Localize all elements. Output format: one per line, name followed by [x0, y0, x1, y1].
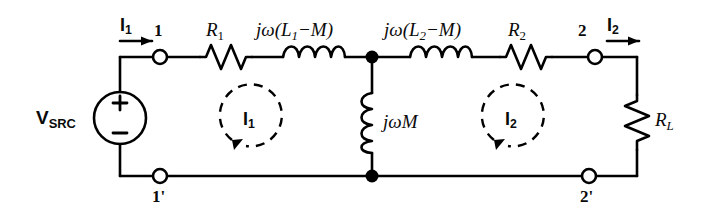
terminal-label-1prime: 1': [152, 188, 165, 205]
terminal-node-1-circle: [153, 50, 167, 64]
resistor-r2-label: R2: [508, 20, 526, 43]
resistor-rl-label-main: R: [655, 109, 667, 130]
junction-dot-top-center: [366, 51, 379, 64]
voltage-source-label-main: V: [36, 107, 49, 128]
source-plus-sign: [113, 96, 127, 110]
inductor-m-label: jωM: [383, 112, 418, 131]
resistor-rl-label: RL: [655, 110, 674, 133]
input-current-i1-sub: 1: [125, 23, 132, 37]
inductor-l2-label: jω(L2−M): [384, 20, 461, 43]
terminal-node-2prime-circle: [582, 169, 596, 183]
mesh-loop-i2-arrowhead: [494, 139, 505, 150]
terminal-node-1prime-circle: [153, 169, 167, 183]
mesh-loop-i1-arrowhead: [232, 139, 243, 150]
terminal-label-2prime: 2': [580, 188, 593, 205]
mesh-current-label-i1: I1: [243, 110, 255, 131]
inductor-m-symbol: [362, 93, 373, 153]
resistor-rl-symbol: [625, 95, 649, 150]
terminal-node-2-circle: [588, 50, 602, 64]
terminal-label-1: 1: [154, 22, 163, 39]
mesh-current-label-i2: I2: [505, 110, 517, 131]
terminal-label-2: 2: [578, 22, 587, 39]
resistor-r2-label-sub: 2: [520, 28, 526, 43]
circuit-schematic-svg: [0, 0, 707, 221]
current-arrow-i2-head: [628, 37, 639, 46]
resistor-r1-label-main: R: [206, 19, 218, 40]
mesh-current-i1-sub: 1: [248, 117, 255, 131]
resistor-rl-label-sub: L: [667, 118, 674, 133]
voltage-source-label-sub: SRC: [49, 116, 76, 131]
resistor-r1-label-sub: 1: [218, 28, 224, 43]
output-current-i2-sub: 2: [612, 23, 619, 37]
circuit-diagram-figure: VSRC 1 1' 2 2' I1 I2 R1 jω(L1−M) jω(L2−M…: [0, 0, 707, 221]
inductor-l1-symbol: [283, 47, 345, 58]
inductor-l2-label-tail: −M): [426, 19, 461, 40]
input-current-label-i1: I1: [120, 16, 132, 37]
inductor-l2-label-head: jω(L: [384, 19, 420, 40]
inductor-l1-label-head: jω(L: [256, 19, 292, 40]
resistor-r2-symbol: [500, 45, 552, 69]
current-arrow-i1-head: [141, 37, 152, 46]
junction-dot-bottom-center: [366, 170, 379, 183]
output-current-label-i2: I2: [607, 16, 619, 37]
resistor-r1-label: R1: [206, 20, 224, 43]
inductor-l2-symbol: [410, 47, 472, 58]
resistor-r1-symbol: [200, 45, 252, 69]
mesh-current-i2-sub: 2: [510, 117, 517, 131]
inductor-l1-label-tail: −M): [298, 19, 333, 40]
voltage-source-label: VSRC: [36, 108, 76, 131]
inductor-l1-label: jω(L1−M): [256, 20, 333, 43]
resistor-r2-label-main: R: [508, 19, 520, 40]
